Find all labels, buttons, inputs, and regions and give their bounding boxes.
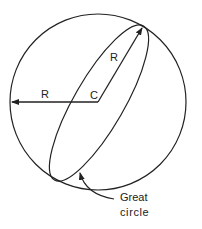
label-radius-diagonal: R [110,51,118,63]
label-center: C [90,89,98,101]
radius-diagonal-arrow [98,28,142,102]
label-radius-horizontal: R [41,88,49,100]
sphere-diagram: C R R Great circle [0,0,202,229]
label-great: Great [120,191,148,203]
great-circle-ellipse [33,13,165,192]
great-circle-pointer-arrow [80,173,114,199]
label-circle: circle [120,206,149,218]
